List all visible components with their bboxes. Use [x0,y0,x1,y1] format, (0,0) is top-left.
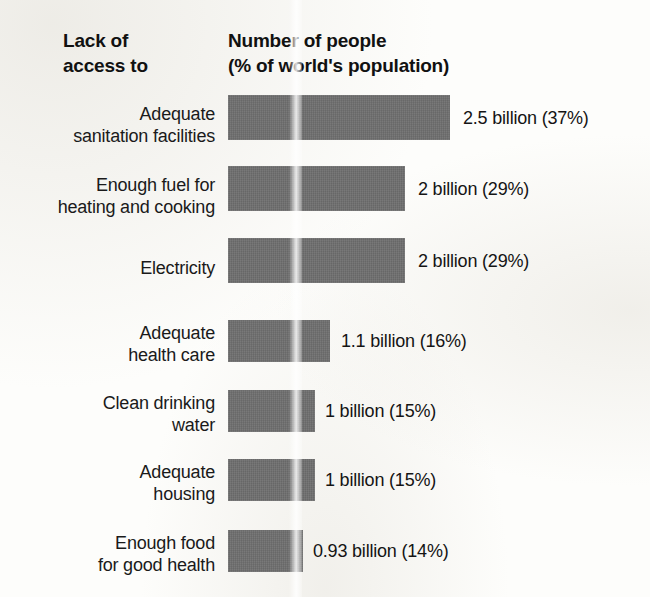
category-label-line-2: heating and cooking [15,196,215,218]
chart-row: Enough fuel for heating and cooking 2 bi… [0,166,650,236]
bar [228,530,303,572]
category-label-line-2: for good health [15,554,215,576]
chart-row: Adequate health care 1.1 billion (16%) [0,320,650,390]
chart-row: Adequate housing 1 billion (15%) [0,459,650,529]
bar [228,95,450,140]
category-label-line-1: Adequate [15,461,215,483]
chart-row: Enough food for good health 0.93 billion… [0,530,650,597]
category-label: Enough fuel for heating and cooking [15,174,215,218]
header-value-column-title: Number of people (% of world's populatio… [228,28,558,78]
category-label-line-1: Enough fuel for [15,174,215,196]
value-label: 1.1 billion (16%) [341,331,467,351]
bar-chart: Lack of access to Number of people (% of… [0,0,650,597]
category-label-line-1: Adequate [15,322,215,344]
chart-row: Clean drinking water 1 billion (15%) [0,390,650,460]
chart-row: Adequate sanitation facilities 2.5 billi… [0,95,650,165]
bar [228,459,315,501]
category-label-line-2: health care [15,344,215,366]
bar-texture [228,95,450,140]
bar-texture [228,530,303,572]
chart-row: Electricity 2 billion (29%) [0,238,650,308]
value-label: 1 billion (15%) [325,470,436,490]
bar [228,166,405,211]
category-label: Enough food for good health [15,532,215,576]
value-label: 2.5 billion (37%) [463,108,589,128]
header-category-column-title: Lack of access to [63,28,218,78]
category-label-line-1: Enough food [15,532,215,554]
value-label: 0.93 billion (14%) [313,541,448,561]
category-label: Adequate sanitation facilities [15,103,215,147]
category-label: Adequate housing [15,461,215,505]
value-label: 1 billion (15%) [325,401,436,421]
bar-texture [228,166,405,211]
header-left-line-1: Lack of [63,28,218,53]
category-label-line-1: Adequate [15,103,215,125]
category-label: Adequate health care [15,322,215,366]
bar-texture [228,238,405,283]
chart-header: Lack of access to Number of people (% of… [0,28,650,86]
category-label-line-2: water [15,414,215,436]
category-label: Electricity [15,257,215,279]
bar [228,320,330,362]
bar [228,238,405,283]
bar-texture [228,390,315,432]
category-label-line-2: housing [15,483,215,505]
value-label: 2 billion (29%) [418,179,529,199]
category-label-line-1: Clean drinking [15,392,215,414]
header-right-line-1: Number of people [228,28,558,53]
bar-texture [228,320,330,362]
category-label: Clean drinking water [15,392,215,436]
bar [228,390,315,432]
header-left-line-2: access to [63,53,218,78]
category-label-line-1: Electricity [15,257,215,279]
category-label-line-2: sanitation facilities [15,125,215,147]
value-label: 2 billion (29%) [418,251,529,271]
bar-texture [228,459,315,501]
header-right-line-2: (% of world's population) [228,53,558,78]
